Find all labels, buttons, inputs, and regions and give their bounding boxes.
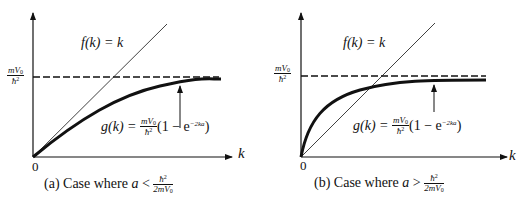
panel-a-caption: (a) Case where a < ħ2 2mV0 <box>44 174 173 195</box>
panel-a-y-level-label: mV0 ħ2 <box>7 66 24 87</box>
panel-b-x-axis-label: k <box>509 148 516 163</box>
panel-b-origin-label: 0 <box>300 159 307 172</box>
panel-b-y-level-label: mV0 ħ2 <box>274 64 291 85</box>
panel-a-origin-label: 0 <box>32 160 39 173</box>
panel-a-f-label: f(k) = k <box>81 36 123 50</box>
diagram-canvas <box>0 0 520 199</box>
panel-a-x-axis-label: k <box>238 146 245 161</box>
panel-b-caption: (b) Case where a > ħ2 2mV0 <box>314 173 444 194</box>
panel-b-g-label: g(k) = mV0 ħ2 (1 − e−2ka) <box>353 116 461 137</box>
panel-a-g-label: g(k) = mV0 ħ2 (1 − e−2ka) <box>101 117 209 138</box>
panel-b-f-label: f(k) = k <box>343 36 385 50</box>
